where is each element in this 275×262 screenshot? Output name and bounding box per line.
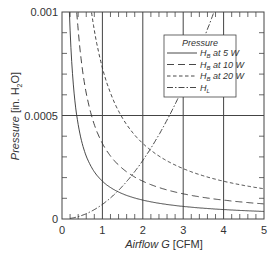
- legend-title: Pressure: [182, 38, 218, 48]
- y-axis-label: Pressure [in. H2O]: [9, 72, 23, 160]
- series-h-b-at-10-w: [75, 2, 263, 204]
- series-h-b-at-5-w: [69, 2, 265, 212]
- x-tick-label: 5: [261, 224, 267, 236]
- x-tick-label: 1: [99, 224, 105, 236]
- x-tick-label: 0: [59, 224, 65, 236]
- data-curves: [69, 2, 265, 219]
- x-tick-label: 4: [221, 224, 227, 236]
- y-tick-label: 0.0005: [24, 110, 58, 122]
- x-tick-label: 2: [140, 224, 146, 236]
- y-tick-label: 0: [52, 213, 58, 225]
- x-axis-label: Airflow G [CFM]: [124, 238, 203, 250]
- pressure-airflow-chart: 01234500.00050.001 Airflow G [CFM] Press…: [0, 0, 275, 262]
- legend-item-label: HB at 5 W: [200, 48, 241, 59]
- x-tick-label: 3: [180, 224, 186, 236]
- y-tick-label: 0.001: [30, 6, 58, 18]
- series-h-l: [70, 2, 264, 219]
- legend: Pressure HB at 5 WHB at 10 WHB at 20 WHL: [164, 35, 246, 97]
